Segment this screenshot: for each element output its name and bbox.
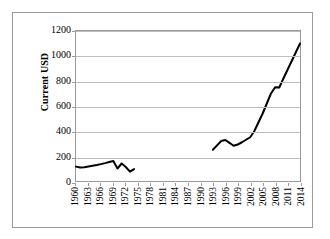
x-tick-label: 1990 [196, 187, 208, 206]
y-tick-mark [72, 56, 76, 57]
x-tick-label: 1987 [183, 187, 195, 206]
x-tick-mark [188, 183, 189, 186]
y-tick-mark [72, 82, 76, 83]
x-tick-mark [113, 183, 114, 186]
x-tick-label: 1966 [95, 187, 107, 206]
y-tick-label: 400 [39, 126, 71, 136]
x-tick-label: 1960 [70, 187, 82, 206]
gridline [76, 107, 300, 108]
x-tick-label: 1993 [208, 187, 220, 206]
gridline [76, 56, 300, 57]
x-tick-mark [100, 183, 101, 186]
line-series-segment-early [76, 161, 134, 172]
x-tick-label: 1972 [120, 187, 132, 206]
x-tick-mark [301, 183, 302, 186]
x-tick-mark [263, 183, 264, 186]
y-tick-label: 600 [39, 101, 71, 111]
x-tick-mark [125, 183, 126, 186]
gridline [76, 132, 300, 133]
x-tick-label: 2002 [246, 187, 258, 206]
x-tick-label: 1984 [170, 187, 182, 206]
y-tick-mark [72, 31, 76, 32]
gridline [76, 82, 300, 83]
y-tick-label: 1000 [39, 50, 71, 60]
y-tick-mark [72, 158, 76, 159]
y-tick-label: 800 [39, 76, 71, 86]
x-tick-label: 1999 [233, 187, 245, 206]
x-tick-label: 2014 [296, 187, 308, 206]
x-tick-label: 1969 [108, 187, 120, 206]
x-tick-mark [226, 183, 227, 186]
x-tick-mark [213, 183, 214, 186]
x-tick-mark [175, 183, 176, 186]
y-tick-label: 200 [39, 152, 71, 162]
x-tick-label: 1978 [145, 187, 157, 206]
line-series-segment-late [213, 44, 300, 150]
x-tick-mark [288, 183, 289, 186]
x-tick-label: 1963 [83, 187, 95, 206]
x-tick-mark [238, 183, 239, 186]
x-tick-label: 1975 [133, 187, 145, 206]
x-tick-mark [201, 183, 202, 186]
x-tick-label: 2005 [258, 187, 270, 206]
plot-area [75, 30, 301, 182]
gridline [76, 158, 300, 159]
x-tick-mark [138, 183, 139, 186]
x-tick-mark [163, 183, 164, 186]
x-tick-label: 2011 [283, 187, 295, 206]
x-tick-mark [88, 183, 89, 186]
x-tick-label: 1996 [221, 187, 233, 206]
y-tick-mark [72, 107, 76, 108]
chart-figure: Current USD 020040060080010001200 196019… [12, 12, 313, 228]
y-axis-tick-labels: 020040060080010001200 [39, 13, 71, 227]
x-tick-mark [276, 183, 277, 186]
x-tick-label: 2008 [271, 187, 283, 206]
y-tick-label: 1200 [39, 25, 71, 35]
x-tick-mark [251, 183, 252, 186]
x-tick-mark [75, 183, 76, 186]
gridline [76, 31, 300, 32]
x-axis-tick-labels: 1960196319661969197219751978198119841987… [75, 183, 301, 239]
x-tick-mark [150, 183, 151, 186]
x-tick-label: 1981 [158, 187, 170, 206]
y-tick-mark [72, 132, 76, 133]
y-tick-label: 0 [39, 177, 71, 187]
